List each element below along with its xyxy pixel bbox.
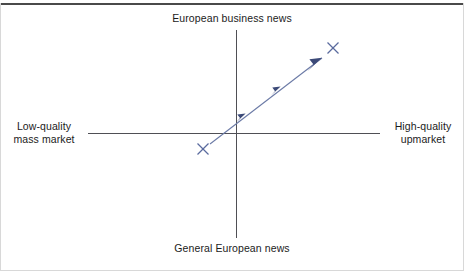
axis-label-bottom: General European news — [0, 242, 464, 255]
horizontal-axis-line — [88, 133, 380, 134]
repositioning-trajectory-arrow — [210, 58, 322, 144]
figure-border-bottom — [0, 270, 464, 271]
figure-border-left — [0, 3, 1, 271]
axis-label-top: European business news — [0, 12, 464, 25]
trajectory-arrowhead-2 — [271, 87, 281, 96]
axis-label-right: High-quality upmarket — [384, 120, 462, 146]
trajectory-arrowhead-1 — [236, 114, 246, 123]
trajectory-arrowhead-3 — [308, 58, 323, 71]
strategy-positioning-figure: European business news General European … — [0, 0, 464, 276]
start-position-marker — [198, 144, 209, 155]
axis-label-left: Low-quality mass market — [4, 120, 84, 146]
end-position-marker — [328, 43, 339, 54]
figure-border-top — [0, 3, 464, 5]
